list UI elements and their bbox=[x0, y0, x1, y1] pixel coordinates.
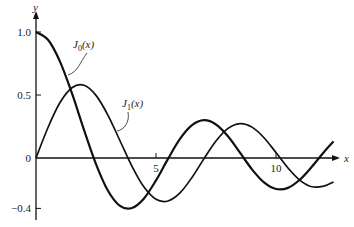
x-tick-label: 5 bbox=[153, 162, 159, 174]
chart: xy5101.00.50−0.4J0(x)J1(x) bbox=[0, 0, 354, 227]
y-tick-label: 0.5 bbox=[17, 89, 31, 101]
y-tick-label: −0.4 bbox=[11, 202, 31, 214]
x-tick-label: 10 bbox=[271, 162, 283, 174]
bessel-chart: xy5101.00.50−0.4J0(x)J1(x) bbox=[0, 0, 354, 227]
j0-label: J0(x) bbox=[73, 38, 94, 53]
curves bbox=[36, 32, 334, 209]
x-axis-arrow bbox=[332, 155, 340, 161]
x-axis-label: x bbox=[343, 152, 349, 164]
j1-curve bbox=[36, 85, 334, 202]
j1-leader-line bbox=[117, 112, 128, 131]
y-tick-label: 1.0 bbox=[17, 26, 31, 38]
y-tick-label: 0 bbox=[26, 152, 32, 164]
j0-curve bbox=[36, 32, 334, 209]
j1-label: J1(x) bbox=[122, 97, 143, 112]
y-axis-label: y bbox=[32, 1, 38, 13]
j0-leader-line bbox=[68, 53, 87, 75]
